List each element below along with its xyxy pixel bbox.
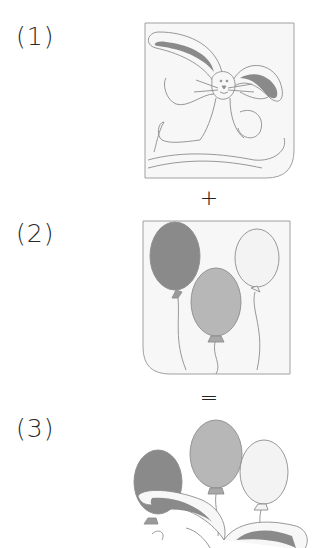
bunny-illustration — [144, 22, 296, 180]
combined-illustration — [132, 418, 312, 548]
step-1-label: (1) — [16, 22, 54, 51]
balloons-illustration — [142, 220, 292, 378]
step-3-label: (3) — [16, 414, 54, 443]
step-2-label: (2) — [16, 219, 54, 248]
plus-operator: + — [199, 185, 219, 210]
equals-operator: = — [199, 385, 219, 410]
